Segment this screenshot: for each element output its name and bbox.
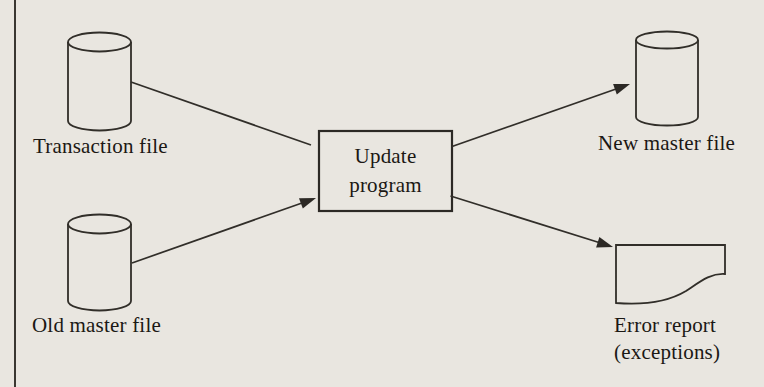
error-report-label-line2: (exceptions) (614, 339, 720, 366)
update-program-label-line1: Update (355, 142, 417, 171)
flowchart-figure: Transaction file Old master file New mas… (0, 0, 764, 387)
update-program-label-line2: program (349, 171, 422, 200)
arrowhead-into-error-report (596, 237, 613, 248)
transaction-file-cylinder-icon (68, 33, 131, 131)
update-program-label: Update program (319, 131, 452, 211)
edge-old-master-to-update (132, 198, 316, 263)
new-master-file-cylinder-icon (636, 32, 698, 126)
arrowhead-into-update-program (299, 198, 316, 209)
new-master-file-label: New master file (598, 131, 735, 155)
old-master-file-cylinder-icon (68, 215, 131, 311)
error-report-label: Error report (exceptions) (614, 312, 720, 366)
transaction-file-label: Transaction file (33, 134, 168, 158)
arrowhead-into-new-master (613, 84, 630, 95)
error-report-document-icon (616, 245, 725, 304)
old-master-file-label: Old master file (32, 313, 161, 337)
error-report-label-line1: Error report (614, 312, 720, 339)
edge-update-to-error-report (451, 196, 614, 248)
